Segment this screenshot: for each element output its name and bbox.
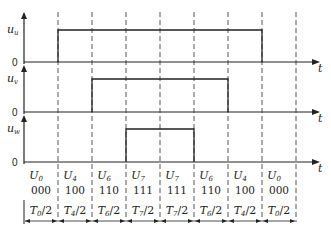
switch-code: 111 (167, 184, 187, 196)
dimension-arrow-icon (127, 219, 132, 223)
time-label: t (318, 62, 323, 75)
dimension-arrow-icon (59, 219, 64, 223)
waveforms: uu0tuv0tuw0t (7, 12, 323, 175)
waveform-u-v: uv0t (7, 65, 323, 125)
dimension-arrow-icon (161, 219, 166, 223)
y-axis-arrow-icon (21, 65, 27, 72)
time-label: T4/2 (64, 204, 87, 218)
time-label: T0/2 (268, 204, 291, 218)
time-label: T6/2 (98, 204, 121, 218)
dimension-arrow-icon (290, 219, 295, 223)
signal-label: uv (7, 72, 18, 86)
time-label: T6/2 (200, 204, 223, 218)
segment-4: U7111T7/2 (161, 169, 193, 223)
dimension-arrow-icon (25, 219, 30, 223)
segment-2: U6110T6/2 (93, 169, 125, 223)
signal-label: uu (7, 23, 19, 37)
vector-label: U7 (131, 169, 145, 183)
dimension-arrow-icon (263, 219, 268, 223)
vector-label: U6 (97, 169, 111, 183)
vector-label: U4 (63, 169, 77, 183)
dimension-arrow-icon (195, 219, 200, 223)
switch-code: 110 (99, 184, 119, 196)
vector-label: U7 (165, 169, 179, 183)
dimension-arrow-icon (86, 219, 91, 223)
dimension-arrow-icon (222, 219, 227, 223)
time-label: T7/2 (132, 204, 155, 218)
switch-code: 000 (31, 184, 51, 196)
waveform-u-u: uu0t (7, 12, 323, 75)
switch-code: 100 (235, 184, 255, 196)
switch-code: 110 (201, 184, 221, 196)
vector-label: U0 (267, 169, 281, 183)
dimension-arrow-icon (52, 219, 57, 223)
switch-code: 100 (65, 184, 85, 196)
zero-label: 0 (12, 157, 18, 168)
time-label: T0/2 (30, 204, 53, 218)
signal-label: uw (7, 122, 20, 136)
y-axis-arrow-icon (21, 115, 27, 122)
dimension-arrow-icon (120, 219, 125, 223)
dimension-arrow-icon (256, 219, 261, 223)
time-label: T4/2 (234, 204, 257, 218)
vector-label: U6 (199, 169, 213, 183)
y-axis-arrow-icon (21, 12, 27, 19)
switch-code: 000 (269, 184, 289, 196)
dimension-arrow-icon (93, 219, 98, 223)
time-label: t (318, 112, 323, 125)
switch-code: 111 (133, 184, 153, 196)
segment-0: U0000T0/2 (25, 169, 57, 223)
dimension-arrow-icon (229, 219, 234, 223)
time-label: T7/2 (166, 204, 189, 218)
segment-1: U4100T4/2 (59, 169, 91, 223)
segment-3: U7111T7/2 (127, 169, 159, 223)
segment-5: U6110T6/2 (195, 169, 227, 223)
dimension-arrow-icon (154, 219, 159, 223)
waveform-u-w: uw0t (7, 115, 323, 175)
vector-label: U0 (29, 169, 43, 183)
zero-label: 0 (12, 57, 18, 68)
vector-label: U4 (233, 169, 247, 183)
segment-6: U4100T4/2 (229, 169, 261, 223)
switching-waveform-diagram: uu0tuv0tuw0t U0000T0/2U4100T4/2U6110T6/2… (0, 0, 331, 233)
zero-label: 0 (12, 107, 18, 118)
time-label: t (318, 162, 323, 175)
dimension-arrow-icon (188, 219, 193, 223)
segment-7: U0000T0/2 (263, 169, 295, 223)
